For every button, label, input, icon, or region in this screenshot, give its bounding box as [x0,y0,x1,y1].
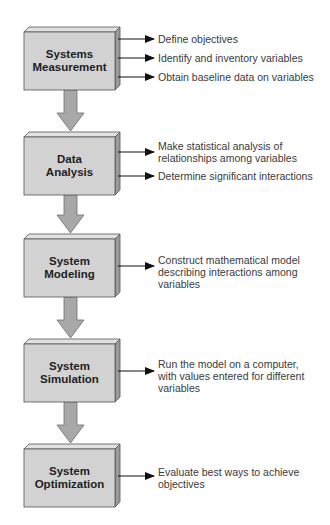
note-statistical-analysis: Make statistical analysis of relationshi… [158,140,297,164]
note-obtain-baseline: Obtain baseline data on variables [158,71,314,83]
connector-arrow-4-5 [57,402,84,443]
note-construct-model: Construct mathematical model describing … [158,254,300,290]
step-title-data-analysis: Data Analysis [24,137,115,195]
step-title-line: System [49,465,90,478]
systems-analysis-flowchart: Systems Measurement Data Analysis System… [0,0,330,525]
connector-arrow-2-3 [57,195,84,233]
step-title-line: Systems [46,48,93,61]
note-line: Make statistical analysis of [158,140,297,152]
step-title-line: Measurement [32,61,106,74]
connector-arrow-3-4 [57,297,84,338]
note-line: variables [158,278,300,290]
step-title-system-modeling: System Modeling [24,239,115,297]
note-evaluate-best-ways: Evaluate best ways to achieve objectives [158,466,299,490]
note-identify-variables: Identify and inventory variables [158,52,303,64]
note-line: with values entered for different [158,370,304,382]
note-line: describing interactions among [158,266,300,278]
note-line: Construct mathematical model [158,254,300,266]
step-title-system-optimization: System Optimization [24,449,115,507]
note-line: Evaluate best ways to achieve [158,466,299,478]
step-title-systems-measurement: Systems Measurement [24,32,115,90]
note-line: objectives [158,478,299,490]
step-title-line: System [49,255,90,268]
note-line: relationships among variables [158,152,297,164]
step-title-line: Modeling [44,268,94,281]
note-define-objectives: Define objectives [158,33,238,45]
step-title-line: Analysis [46,166,93,179]
step-title-line: System [49,360,90,373]
step-title-line: Data [57,153,82,166]
connector-arrow-1-2 [57,90,84,131]
step-title-line: Optimization [35,478,105,491]
note-line: Run the model on a computer, [158,358,304,370]
step-title-system-simulation: System Simulation [24,344,115,402]
note-line: variables [158,382,304,394]
note-significant-interactions: Determine significant interactions [158,170,313,182]
step-title-line: Simulation [40,373,99,386]
note-run-model: Run the model on a computer, with values… [158,358,304,394]
